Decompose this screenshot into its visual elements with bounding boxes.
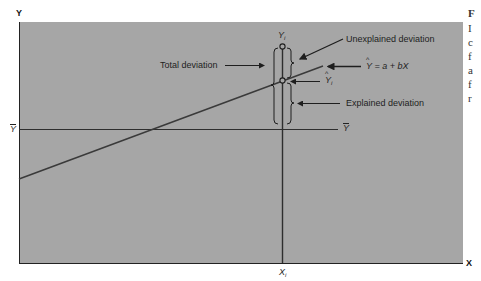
total-deviation-label: Total deviation [160,61,218,70]
total-deviation-brace [271,48,278,124]
xi-label: Xi [279,268,286,277]
observed-point [280,44,285,49]
y-axis-label: Y [16,9,22,18]
side-text-1: I [468,21,472,35]
x-axis-label: X [466,259,472,268]
side-text-0: F [468,6,475,20]
predicted-point [280,78,285,83]
explained-deviation-label: Explained deviation [346,99,424,108]
unexplained-deviation-arrow [300,39,343,59]
explained-deviation-brace [287,83,294,124]
unexplained-deviation-brace [287,48,294,78]
side-text-2: c [468,35,473,49]
side-text-3: f [468,49,472,63]
side-text-5: f [468,77,472,91]
side-text-6: r [468,91,472,105]
mean-y-label-right: Y [343,124,349,133]
side-text-4: a [468,63,473,77]
unexplained-deviation-label: Unexplained deviation [346,35,435,44]
mean-y-label-left: Y [10,125,16,134]
regression-line [19,66,323,179]
regression-equation-label: Y = a + bX [366,62,409,71]
predicted-y-label: Yi [325,76,332,85]
observed-y-label: Yi [278,31,285,40]
